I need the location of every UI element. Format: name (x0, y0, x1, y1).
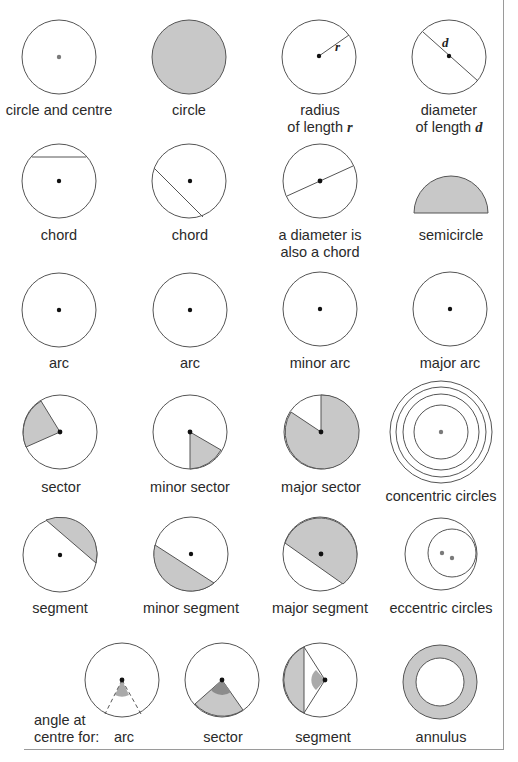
label-major-arc: major arc (420, 355, 480, 372)
circle-and-centre-figure (22, 20, 96, 94)
angle-arc-figure (85, 643, 159, 717)
circle-parts-diagram: r d circle and centre circle radius of l… (0, 0, 518, 762)
chord-diagonal-figure (152, 144, 226, 218)
label-arc-2: arc (180, 355, 200, 372)
major-sector-figure (284, 395, 359, 469)
minor-sector-figure (153, 395, 227, 469)
minor-arc-figure (283, 272, 357, 346)
label-diameter-line2: of length d (416, 119, 483, 136)
label-major-segment: major segment (272, 600, 368, 617)
label-angle-at-centre: angle at centre for: (34, 712, 99, 746)
label-diameter-chord-line1: a diameter is (278, 227, 361, 244)
label-concentric-circles: concentric circles (385, 488, 496, 505)
annulus-figure (403, 645, 477, 719)
label-major-sector: major sector (281, 479, 361, 496)
radius-figure (282, 20, 356, 94)
label-radius-line2: of length r (287, 119, 352, 136)
label-minor-sector: minor sector (150, 479, 230, 496)
label-angle-at-centre-line2: centre for: (34, 729, 99, 746)
label-minor-arc: minor arc (290, 355, 350, 372)
eccentric-circles-figure (405, 518, 477, 590)
label-circle-and-centre: circle and centre (6, 102, 112, 119)
label-eccentric-circles: eccentric circles (389, 600, 492, 617)
label-angle-segment: segment (295, 729, 351, 746)
label-segment: segment (32, 600, 88, 617)
frame-bottom-border (24, 749, 504, 750)
diameter-figure (412, 20, 486, 94)
arc-1-figure (22, 273, 96, 347)
label-angle-arc: arc (114, 729, 134, 746)
label-radius-line1: radius (287, 102, 352, 119)
frame-right-border (503, 0, 504, 750)
label-chord-2: chord (172, 227, 208, 244)
label-circle: circle (172, 102, 206, 119)
label-diameter-chord: a diameter is also a chord (278, 227, 361, 261)
diameter-chord-figure (283, 144, 357, 218)
arc-2-figure (153, 273, 227, 347)
chord-horizontal-figure (22, 144, 96, 218)
sector-figure (23, 395, 97, 469)
label-arc-1: arc (49, 355, 69, 372)
semicircle-figure (414, 176, 488, 213)
label-angle-sector: sector (203, 729, 243, 746)
segment-figure (23, 517, 97, 592)
label-angle-at-centre-line1: angle at (34, 712, 99, 729)
major-segment-figure (283, 517, 357, 591)
label-diameter-chord-line2: also a chord (278, 244, 361, 261)
label-chord-1: chord (41, 227, 77, 244)
minor-segment-figure (154, 517, 228, 591)
angle-sector-figure (185, 643, 259, 717)
label-semicircle: semicircle (419, 227, 483, 244)
label-diameter: diameter of length d (416, 102, 483, 136)
major-arc-figure (413, 272, 487, 346)
label-sector: sector (41, 479, 81, 496)
concentric-circles-figure (390, 381, 492, 483)
label-diameter-line1: diameter (416, 102, 483, 119)
label-radius: radius of length r (287, 102, 352, 136)
label-minor-segment: minor segment (143, 600, 239, 617)
label-annulus: annulus (416, 729, 467, 746)
angle-segment-figure (283, 643, 357, 717)
filled-circle-figure (152, 20, 226, 94)
diameter-symbol: d (442, 35, 449, 50)
